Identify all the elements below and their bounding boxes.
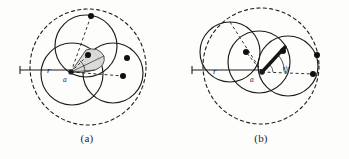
dot-center xyxy=(85,52,91,58)
label-r: r xyxy=(213,66,217,76)
vertex-point xyxy=(259,69,265,75)
figure-a: r a (a) xyxy=(0,0,174,159)
label-a: a xyxy=(63,75,67,84)
label-a: a xyxy=(250,75,254,84)
dot-top xyxy=(88,13,94,19)
dot-right-lower xyxy=(120,73,126,79)
dashed-radius-left-circle xyxy=(230,22,262,72)
vertex-point xyxy=(68,69,73,74)
outer-dashed-circle xyxy=(203,8,319,124)
solid-circle-middle xyxy=(228,31,290,93)
figure-b: r a ψ (b) xyxy=(174,0,348,159)
figure-a-caption: (a) xyxy=(0,132,174,144)
dot-middle-right xyxy=(280,48,286,54)
angle-arc-small xyxy=(270,65,273,72)
dot-right-upper xyxy=(314,52,320,58)
label-r: r xyxy=(47,65,51,75)
dot-right-lower xyxy=(310,71,316,77)
figure-b-caption: (b) xyxy=(174,132,348,144)
dot-right-upper xyxy=(124,55,130,61)
dot-middle-left xyxy=(243,49,249,55)
figure-pair: r a (a) xyxy=(0,0,349,159)
